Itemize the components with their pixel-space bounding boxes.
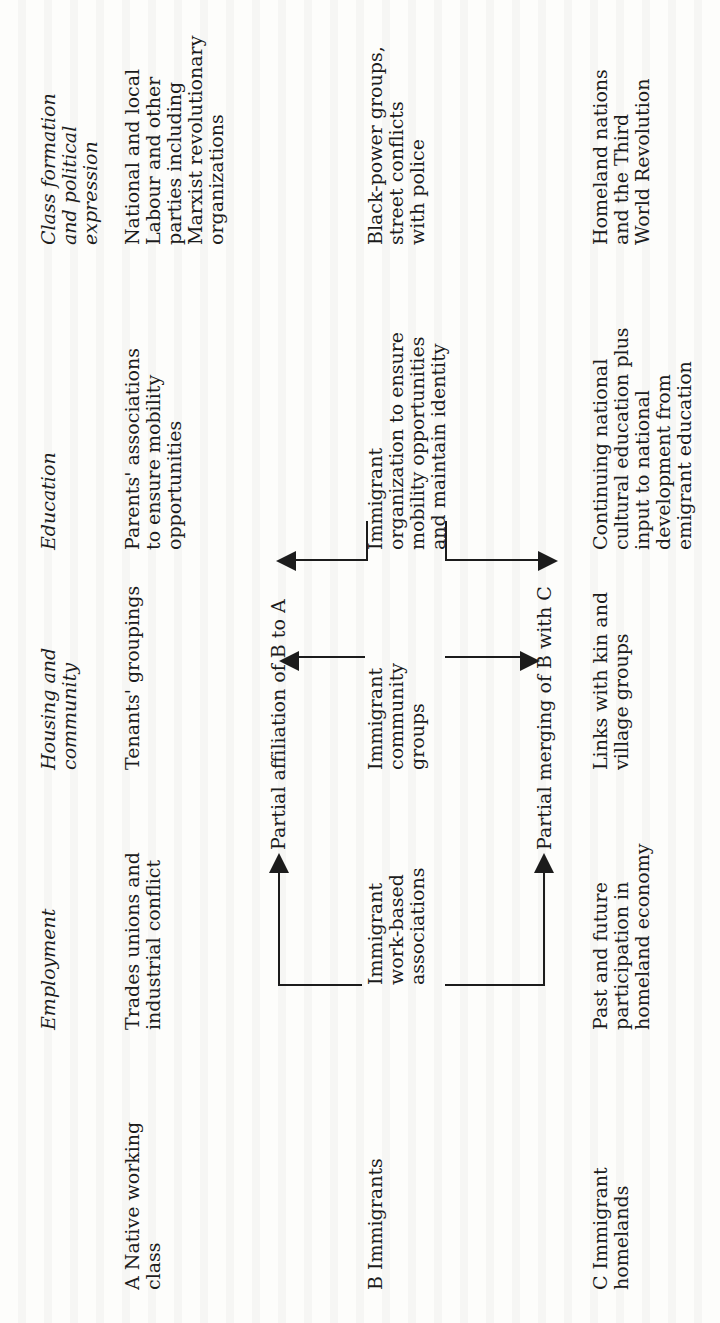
- arrowhead-up-icon: [279, 651, 299, 671]
- column-header-education: Education: [38, 452, 59, 550]
- cell-a-class-formation: National and local Labour and other part…: [122, 36, 227, 245]
- arrowhead-down-icon: [520, 651, 540, 671]
- column-header-class-formation: Class formation and political expression: [38, 93, 101, 245]
- row-label-c: C Immigrant homelands: [590, 1167, 632, 1290]
- arrowhead-down-icon: [538, 551, 558, 571]
- connector-line-housing-b-to-c: [445, 656, 520, 658]
- rotated-page: Employment Housing and community Educati…: [0, 0, 720, 1323]
- connector-line-employment-b-to-c-h: [543, 871, 545, 986]
- cell-c-housing: Links with kin and village groups: [590, 592, 632, 770]
- cell-b-education: Immigrant organization to ensure mobilit…: [365, 332, 449, 550]
- cell-b-class-formation: Black-power groups, street conflicts wit…: [365, 46, 428, 245]
- connector-line-employment-b-to-a: [278, 984, 362, 986]
- cell-c-education: Continuing national cultural education p…: [590, 327, 695, 550]
- cell-b-employment: Immigrant work-based associations: [365, 868, 428, 985]
- cell-b-housing: Immigrant community groups: [365, 663, 428, 770]
- arrowhead-right-icon: [534, 853, 554, 873]
- cell-a-education: Parents' associations to ensure mobility…: [122, 348, 185, 550]
- connector-line-education-b-to-c: [445, 559, 540, 561]
- arrowhead-right-icon: [269, 853, 289, 873]
- connector-label-b-with-c: Partial merging of B with C: [534, 586, 555, 850]
- connector-line-housing-b-to-a: [290, 656, 365, 658]
- cell-c-employment: Past and future participation in homelan…: [590, 843, 653, 1030]
- column-header-employment: Employment: [38, 909, 59, 1030]
- arrowhead-up-icon: [276, 551, 296, 571]
- column-header-housing: Housing and community: [38, 648, 80, 770]
- connector-label-b-to-a: Partial affiliation of B to A: [268, 599, 289, 850]
- connector-line-education-b-to-a: [290, 559, 368, 561]
- row-label-a: A Native working class: [122, 1122, 164, 1290]
- cell-c-class-formation: Homeland nations and the Third World Rev…: [590, 69, 653, 245]
- cell-a-employment: Trades unions and industrial conflict: [122, 852, 164, 1030]
- connector-line-education-b-to-c-h: [445, 521, 447, 561]
- row-label-b: B Immigrants: [365, 1158, 386, 1290]
- connector-line-employment-b-to-c: [445, 984, 545, 986]
- cell-a-housing: Tenants' groupings: [122, 586, 143, 770]
- connector-line-employment-b-to-a-h: [278, 871, 280, 986]
